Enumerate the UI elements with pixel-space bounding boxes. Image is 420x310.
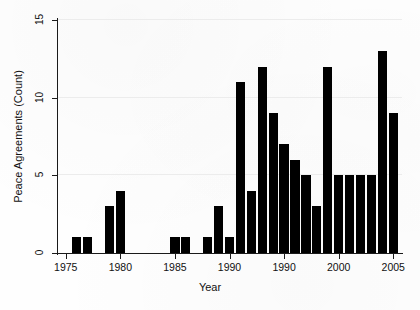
y-tick-label-5: 5 [34,168,45,182]
x-tick-2005 [393,254,394,259]
gridline-y-15 [57,19,402,20]
x-tick-label-5: 2000 [327,261,350,273]
x-tick-1985 [175,254,176,259]
x-tick-label-4: 1990 [272,261,295,273]
bar [105,206,114,253]
bar [345,175,354,253]
bar [279,144,288,253]
bar [356,175,365,253]
x-tick-label-3: 1990 [218,261,241,273]
y-tick-5 [52,175,57,176]
bar [301,175,310,253]
x-tick-1975 [66,254,67,259]
y-tick-15 [52,20,57,21]
bar [116,191,125,253]
gridline-y-10 [57,97,402,98]
bar [203,237,212,253]
x-tick-1990 [230,254,231,259]
bar [225,237,234,253]
bar [389,113,398,253]
bar [334,175,343,253]
bar [367,175,376,253]
bar [323,67,332,253]
x-tick-2000 [339,254,340,259]
x-tick-1980 [120,254,121,259]
y-tick-label-15: 15 [34,13,45,27]
y-tick-label-0: 0 [34,246,45,260]
bar [214,206,223,253]
x-tick-label-1: 1980 [109,261,132,273]
bar [72,237,81,253]
y-tick-label-10: 10 [34,90,45,104]
y-tick-10 [52,98,57,99]
plot-area [57,20,402,253]
y-axis-title: Peace Agreements (Count) [12,20,24,253]
bar [236,82,245,253]
x-axis-title: Year [0,281,420,293]
y-tick-0 [52,253,57,254]
bar [83,237,92,253]
bar [290,160,299,253]
x-tick-label-2: 1985 [163,261,186,273]
x-tick-label-6: 2005 [382,261,405,273]
bar [378,51,387,253]
bar [247,191,256,253]
x-tick-label-0: 1975 [54,261,77,273]
chart-figure: 051015 1975198019851990199020002005 Year… [0,0,420,310]
x-tick-1995 [284,254,285,259]
bar [181,237,190,253]
bar [269,113,278,253]
bar [312,206,321,253]
x-axis-line [53,253,403,254]
bar [170,237,179,253]
y-axis-line [57,18,58,255]
bar [258,67,267,253]
